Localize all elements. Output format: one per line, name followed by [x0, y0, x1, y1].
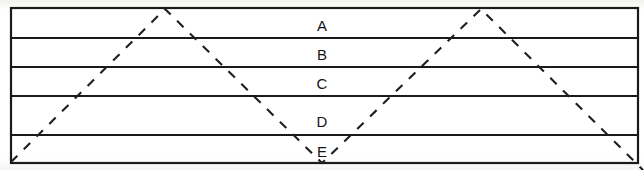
band-label-d: D [310, 114, 334, 129]
band-label-e: E [310, 144, 334, 159]
figure-canvas: A B C D E [0, 0, 644, 170]
band-label-a: A [310, 18, 334, 33]
band-label-b: B [310, 47, 334, 62]
band-label-c: C [310, 76, 334, 91]
